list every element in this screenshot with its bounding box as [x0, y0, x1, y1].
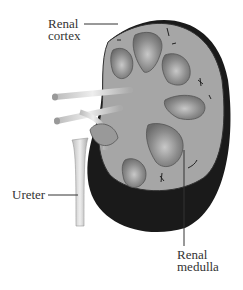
kidney-diagram: Renal cortex Ureter Renal medulla [0, 0, 243, 290]
renal-cortex-label: Renal cortex [48, 18, 80, 42]
ureter-label: Ureter [12, 189, 45, 201]
renal-medulla-label: Renal medulla [177, 249, 219, 273]
ureter [72, 138, 88, 226]
